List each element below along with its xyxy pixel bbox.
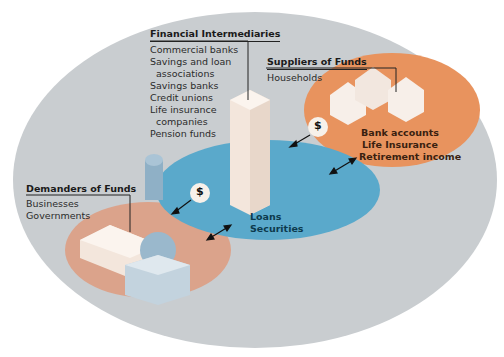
supplier-products: Bank accounts Life Insurance Retirement … <box>361 127 461 163</box>
intermediary-item: companies <box>150 116 280 128</box>
demanders-title: Demanders of Funds <box>26 183 136 196</box>
supplier-product: Retirement income <box>359 151 461 163</box>
demander-item: Governments <box>26 210 136 222</box>
supplier-product: Life Insurance <box>361 139 461 151</box>
intermediary-item: Life insurance <box>150 104 280 116</box>
dollar-icon-demanders: $ <box>196 186 204 198</box>
suppliers-subtitle: Households <box>267 72 367 84</box>
demanders-block: Demanders of Funds Businesses Government… <box>26 183 136 222</box>
suppliers-title: Suppliers of Funds <box>267 56 367 70</box>
market-item: Loans <box>250 211 304 223</box>
market-item: Securities <box>250 223 304 235</box>
intermediary-item: Pension funds <box>150 128 280 140</box>
dollar-icon-suppliers: $ <box>314 120 322 132</box>
intermediary-item: Credit unions <box>150 92 280 104</box>
intermediary-item: Savings banks <box>150 80 280 92</box>
intermediary-item: Savings and loan <box>150 56 280 68</box>
market-block: Loans Securities <box>250 211 304 235</box>
demander-item: Businesses <box>26 198 136 210</box>
suppliers-block: Suppliers of Funds Households <box>267 56 367 84</box>
intermediary-item: Commercial banks <box>150 44 280 56</box>
intermediaries-title: Financial Intermediaries <box>150 28 280 42</box>
intermediary-item: associations <box>150 68 280 80</box>
intermediaries-block: Financial Intermediaries Commercial bank… <box>150 28 280 140</box>
supplier-product: Bank accounts <box>361 127 461 139</box>
